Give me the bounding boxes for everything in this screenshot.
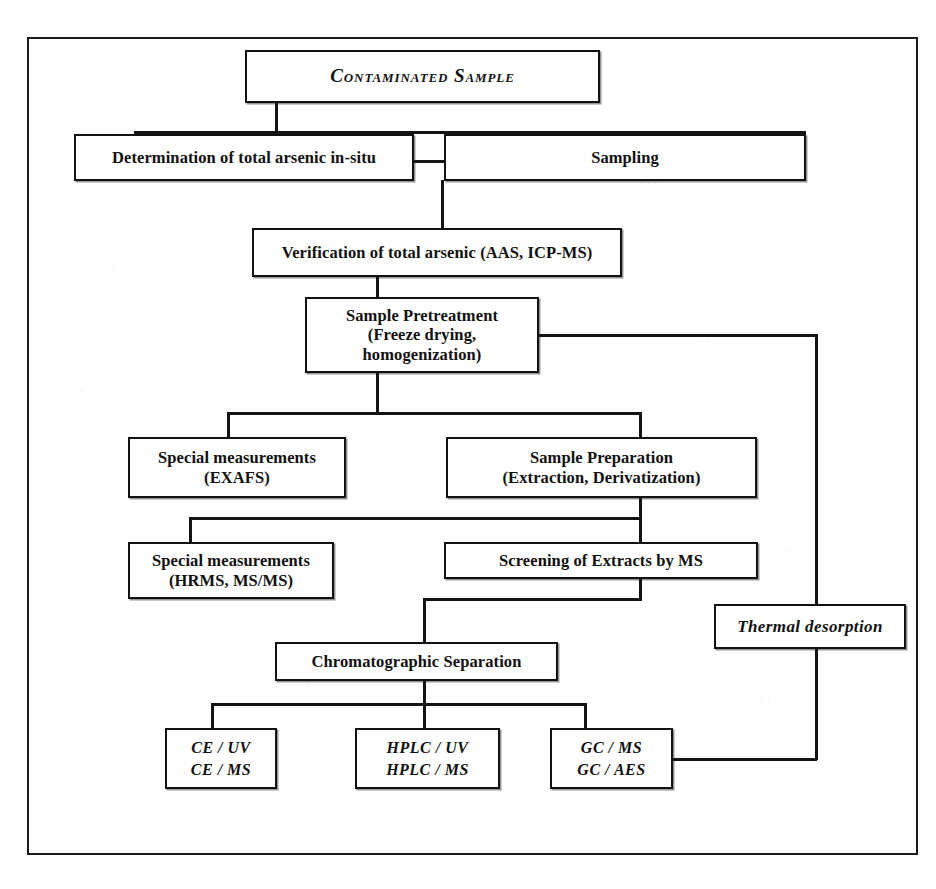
node-sample-preparation[interactable]: Sample Preparation (Extraction, Derivati… xyxy=(446,437,757,498)
connector-chromatography-down xyxy=(423,680,426,705)
connector-sampleprep-down xyxy=(639,497,642,519)
connector-pretreatment-down xyxy=(376,372,379,414)
node-label-line2: (EXAFS) xyxy=(204,468,270,487)
node-label-line1: CE / UV xyxy=(191,739,251,756)
connector-drop-exafs xyxy=(227,412,230,438)
node-label-line1: GC / MS xyxy=(581,739,642,756)
connector-screening-left xyxy=(423,598,642,601)
node-screening-of-extracts[interactable]: Screening of Extracts by MS xyxy=(444,542,758,579)
node-label: GC / MS GC / AES xyxy=(552,737,671,780)
node-label: Sample Preparation (Extraction, Derivati… xyxy=(448,448,755,486)
node-special-measurements-hrms[interactable]: Special measurements (HRMS, MS/MS) xyxy=(128,542,334,599)
node-label: Sample Pretreatment (Freeze drying, homo… xyxy=(307,306,537,363)
connector-right-rail xyxy=(815,334,818,760)
connector-rail-to-gc xyxy=(672,758,817,761)
node-label: Chromatographic Separation xyxy=(277,652,556,671)
node-label: Thermal desorption xyxy=(716,617,904,637)
node-label: Sampling xyxy=(446,148,804,167)
connector-sample-down xyxy=(275,103,278,133)
node-determination-in-situ[interactable]: Determination of total arsenic in-situ xyxy=(74,134,414,181)
connector-screening-down xyxy=(639,578,642,600)
node-label-line2: GC / AES xyxy=(577,761,645,778)
node-gc[interactable]: GC / MS GC / AES xyxy=(550,728,673,789)
node-label: Contaminated Sample xyxy=(247,65,598,87)
connector-split-row7 xyxy=(211,703,586,706)
node-label: Verification of total arsenic (AAS, ICP-… xyxy=(254,243,620,262)
node-label-line1: Special measurements xyxy=(158,448,316,467)
connector-to-chromatography xyxy=(423,598,426,643)
node-label: Special measurements (EXAFS) xyxy=(130,448,344,486)
connector-determination-to-sampling xyxy=(413,160,445,163)
node-chromatographic-separation[interactable]: Chromatographic Separation xyxy=(275,642,558,681)
node-contaminated-sample[interactable]: Contaminated Sample xyxy=(245,50,600,103)
node-label-line1: Special measurements xyxy=(152,551,310,570)
node-label-line2: (Extraction, Derivatization) xyxy=(503,468,701,487)
node-hplc[interactable]: HPLC / UV HPLC / MS xyxy=(355,728,500,789)
node-label-line1: HPLC / UV xyxy=(387,739,469,756)
node-label: CE / UV CE / MS xyxy=(167,737,275,780)
node-sampling[interactable]: Sampling xyxy=(444,134,806,181)
node-label: HPLC / UV HPLC / MS xyxy=(357,737,498,780)
node-label-line2: (HRMS, MS/MS) xyxy=(169,571,293,590)
connector-drop-sample-prep xyxy=(639,412,642,438)
connector-drop-hplc xyxy=(423,703,426,729)
flowchart-canvas: . . . . . . . . Contaminated Sample Dete… xyxy=(0,0,936,889)
connector-drop-screening xyxy=(639,517,642,543)
connector-drop-ce xyxy=(211,703,214,729)
node-ce[interactable]: CE / UV CE / MS xyxy=(165,728,277,789)
node-label: Determination of total arsenic in-situ xyxy=(76,148,412,167)
node-label-line1: Sample Preparation xyxy=(530,448,673,467)
node-label-line2: (Freeze drying, xyxy=(368,325,476,344)
connector-pretreatment-to-rail xyxy=(538,334,817,337)
connector-split-row4 xyxy=(227,412,642,415)
node-label-line1: Sample Pretreatment xyxy=(346,306,498,325)
connector-split-row5 xyxy=(189,517,641,520)
node-sample-pretreatment[interactable]: Sample Pretreatment (Freeze drying, homo… xyxy=(305,297,539,373)
connector-verification-down xyxy=(376,276,379,298)
node-thermal-desorption[interactable]: Thermal desorption xyxy=(714,604,906,649)
node-label-line2: CE / MS xyxy=(191,761,251,778)
node-special-measurements-exafs[interactable]: Special measurements (EXAFS) xyxy=(128,437,346,498)
node-label: Screening of Extracts by MS xyxy=(446,551,756,570)
node-verification-total-arsenic[interactable]: Verification of total arsenic (AAS, ICP-… xyxy=(252,228,622,277)
node-label-line3: homogenization) xyxy=(363,345,482,364)
connector-drop-hrms xyxy=(189,517,192,543)
node-label-line2: HPLC / MS xyxy=(386,761,469,778)
node-label: Special measurements (HRMS, MS/MS) xyxy=(130,551,332,589)
connector-drop-gc xyxy=(584,703,587,729)
